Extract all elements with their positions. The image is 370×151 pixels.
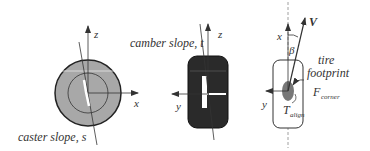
- z-label-front: z: [217, 28, 223, 40]
- front-view-panel: z y camber slope, t: [130, 24, 228, 140]
- z-label-side: z: [93, 28, 99, 40]
- vehicle-tire-diagram: z x caster slope, s z y camber slope, t …: [0, 0, 370, 151]
- tire-footprint-label-1: tire: [318, 53, 335, 67]
- camber-slope-caption: camber slope, t: [130, 36, 204, 50]
- x-label-side: x: [133, 97, 139, 109]
- tire-footprint-label-2: footprint: [307, 66, 350, 80]
- side-view-panel: z x caster slope, s: [18, 26, 139, 145]
- velocity-label: V: [309, 15, 318, 29]
- cornering-force-subscript: corner: [321, 93, 340, 101]
- beta-arc: [288, 35, 298, 37]
- top-view-panel: x y V β tire footprint F corner T align: [261, 2, 350, 148]
- cornering-force-label: F: [312, 85, 321, 99]
- x-label-top: x: [276, 30, 282, 42]
- caster-slope-caption: caster slope, s: [18, 130, 87, 144]
- beta-label: β: [288, 44, 295, 56]
- y-label-top: y: [261, 98, 267, 110]
- y-label-front: y: [175, 100, 181, 112]
- align-torque-subscript: align: [290, 111, 305, 119]
